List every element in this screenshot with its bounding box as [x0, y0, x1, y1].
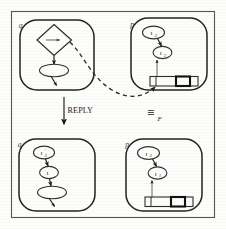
node-iota1-bottom-right-label: ι	[155, 170, 157, 178]
figure-canvas: q p ι 2	[0, 0, 226, 229]
queue-cell-marked-bottom-right	[171, 197, 185, 207]
panel-bottom-right-corner-label: p	[124, 140, 129, 149]
node-iota2-prime-bottom-left-label: ι	[40, 149, 42, 157]
panel-top-right: p ι 2 ι 1	[129, 18, 207, 90]
panel-bottom-left-corner-label: q	[18, 140, 22, 149]
panel-top-right-corner-label: p	[129, 20, 134, 29]
panel-top-left-corner-label: q	[19, 21, 23, 30]
panel-bottom-left: q ι ′ 2 ι	[18, 139, 95, 211]
panel-top-left: q	[19, 20, 94, 90]
node-iota-bottom-left-label: ι	[46, 169, 48, 177]
node-iota1-top-right	[153, 46, 172, 58]
node-iota-bottom-left	[40, 166, 59, 178]
actor-ellipse-bottom-left	[38, 186, 67, 198]
node-iota1-top-right-label: ι	[160, 49, 162, 57]
node-iota2-top-right-label: ι	[151, 29, 153, 37]
node-iota1-top-right-subscript: 1	[164, 53, 166, 58]
reply-arrow-label: REPLY	[68, 106, 94, 115]
queue-cell-marked-top-right	[176, 77, 190, 87]
equivalence-glyph: ≡	[147, 105, 154, 120]
actor-ellipse-top-left	[40, 64, 69, 76]
panel-bottom-right: p ι 2 ι 1	[124, 139, 202, 211]
node-iota1-bottom-right	[148, 167, 167, 179]
node-iota1-bottom-right-subscript: 1	[159, 173, 161, 178]
node-iota2-bottom-right-label: ι	[146, 150, 148, 158]
figure-container: q p ι 2	[0, 0, 226, 229]
equivalence-subscript: F	[157, 115, 163, 123]
